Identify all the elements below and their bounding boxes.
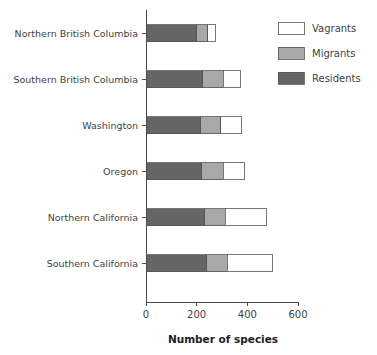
bar-segment-residents bbox=[146, 209, 205, 226]
bars-layer bbox=[146, 25, 273, 272]
bar-group bbox=[146, 71, 240, 88]
legend-swatch-residents bbox=[278, 72, 304, 84]
bar-group bbox=[146, 163, 244, 180]
x-tick-label: 200 bbox=[187, 309, 206, 320]
category-labels-layer: Northern British ColumbiaSouthern Britis… bbox=[13, 28, 138, 269]
chart-container: Northern British ColumbiaSouthern Britis… bbox=[0, 0, 377, 355]
legend-swatch-migrants bbox=[278, 47, 304, 59]
x-tick-label: 600 bbox=[288, 309, 307, 320]
legend-label: Vagrants bbox=[312, 23, 356, 34]
bar-segment-residents bbox=[146, 255, 207, 272]
bar-group bbox=[146, 25, 216, 42]
bar-segment-vagrants bbox=[223, 71, 240, 88]
x-tick-label: 400 bbox=[238, 309, 257, 320]
bar-segment-residents bbox=[146, 163, 202, 180]
legend: VagrantsMigrantsResidents bbox=[278, 22, 361, 84]
bar-group bbox=[146, 255, 273, 272]
bar-segment-migrants bbox=[203, 71, 223, 88]
bar-segment-migrants bbox=[207, 255, 227, 272]
category-label: Oregon bbox=[103, 166, 138, 177]
bar-segment-vagrants bbox=[225, 209, 267, 226]
bar-segment-vagrants bbox=[227, 255, 273, 272]
legend-swatch-vagrants bbox=[278, 22, 304, 34]
bar-segment-vagrants bbox=[208, 25, 216, 42]
category-label: Southern California bbox=[47, 258, 138, 269]
x-tick-label: 0 bbox=[143, 309, 149, 320]
bar-segment-residents bbox=[146, 117, 201, 134]
category-label: Washington bbox=[82, 120, 138, 131]
bar-segment-migrants bbox=[202, 163, 223, 180]
category-label: Northern British Columbia bbox=[15, 28, 138, 39]
bar-segment-residents bbox=[146, 25, 197, 42]
category-label: Southern British Columbia bbox=[13, 74, 138, 85]
x-axis-title: Number of species bbox=[168, 333, 278, 345]
bar-group bbox=[146, 117, 241, 134]
x-tick-labels-layer: 0200400600 bbox=[143, 309, 308, 320]
legend-item[interactable]: Vagrants bbox=[278, 22, 356, 34]
legend-item[interactable]: Migrants bbox=[278, 47, 355, 59]
bar-segment-vagrants bbox=[221, 117, 241, 134]
bar-segment-migrants bbox=[201, 117, 221, 134]
bar-segment-residents bbox=[146, 71, 203, 88]
legend-label: Migrants bbox=[312, 48, 355, 59]
bar-segment-vagrants bbox=[223, 163, 244, 180]
stacked-bar-chart: Northern British ColumbiaSouthern Britis… bbox=[0, 0, 377, 355]
legend-label: Residents bbox=[312, 73, 361, 84]
bar-segment-migrants bbox=[205, 209, 225, 226]
bar-segment-migrants bbox=[197, 25, 208, 42]
legend-item[interactable]: Residents bbox=[278, 72, 361, 84]
category-label: Northern California bbox=[48, 212, 138, 223]
bar-group bbox=[146, 209, 267, 226]
